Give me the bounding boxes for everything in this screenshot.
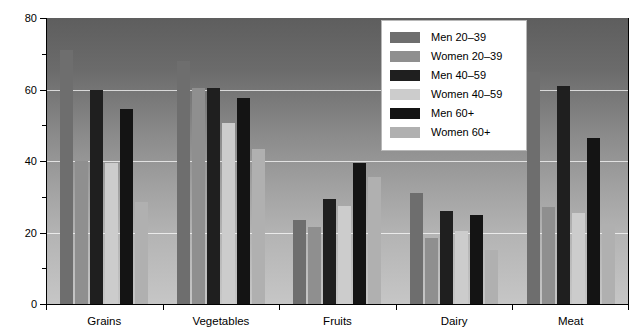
x-axis-category-label: Fruits — [323, 315, 352, 327]
x-axis-category: Grains — [46, 305, 163, 335]
bar — [105, 163, 118, 304]
bar-group — [512, 18, 629, 304]
legend-label: Women 60+ — [431, 127, 490, 138]
x-axis-category-label: Meat — [558, 315, 584, 327]
bar — [75, 161, 88, 304]
legend-item[interactable]: Men 60+ — [390, 104, 518, 123]
y-axis-tick-label: 60 — [25, 84, 37, 95]
x-axis-tick — [396, 305, 397, 310]
bar-chart: 020406080 GrainsVegetablesFruitsDairyMea… — [0, 0, 637, 335]
legend-swatch — [390, 89, 420, 100]
legend-label: Women 40–59 — [431, 89, 502, 100]
bar — [252, 149, 265, 305]
bar — [135, 202, 148, 304]
bar — [425, 238, 438, 304]
bar — [410, 193, 423, 304]
legend-swatch — [390, 51, 420, 62]
x-axis-category-label: Grains — [87, 315, 121, 327]
bar — [353, 163, 366, 304]
y-axis-tick-label: 40 — [25, 156, 37, 167]
bars-layer — [46, 18, 629, 304]
x-axis-tick — [279, 305, 280, 310]
bar — [323, 199, 336, 304]
legend-item[interactable]: Men 40–59 — [390, 66, 518, 85]
bar-group — [163, 18, 280, 304]
bar — [557, 86, 570, 304]
bar — [90, 90, 103, 305]
x-axis-category-label: Vegetables — [192, 315, 249, 327]
x-axis-tick — [163, 305, 164, 310]
legend-item[interactable]: Women 60+ — [390, 123, 518, 142]
bar — [572, 213, 585, 304]
bar-group — [46, 18, 163, 304]
legend-label: Men 20–39 — [431, 32, 486, 43]
bar — [587, 138, 600, 304]
x-axis-category: Fruits — [279, 305, 396, 335]
bar — [602, 224, 615, 304]
bar — [338, 206, 351, 304]
bar — [60, 50, 73, 304]
bar — [192, 88, 205, 304]
bar — [222, 123, 235, 304]
bar — [542, 207, 555, 304]
x-axis-tick — [46, 305, 47, 310]
bar — [177, 61, 190, 304]
y-axis-tick-label: 80 — [25, 13, 37, 24]
legend-swatch — [390, 127, 420, 138]
bar — [440, 211, 453, 304]
bar — [237, 98, 250, 304]
bar — [368, 177, 381, 304]
bar — [308, 227, 321, 304]
y-axis-tick-label: 0 — [31, 299, 37, 310]
bar — [470, 215, 483, 304]
bar-group — [279, 18, 396, 304]
x-axis-labels: GrainsVegetablesFruitsDairyMeat — [46, 305, 629, 335]
y-axis-line — [46, 18, 47, 304]
x-axis-tick — [512, 305, 513, 310]
legend-label: Women 20–39 — [431, 51, 502, 62]
chart-legend: Men 20–39Women 20–39Men 40–59Women 40–59… — [381, 20, 527, 151]
legend-item[interactable]: Women 20–39 — [390, 47, 518, 66]
legend-label: Men 60+ — [431, 108, 474, 119]
bar — [120, 109, 133, 304]
x-axis-right-cap — [628, 18, 629, 304]
x-axis-tick — [628, 305, 629, 310]
legend-label: Men 40–59 — [431, 70, 486, 81]
plot-area — [46, 18, 629, 304]
legend-swatch — [390, 32, 420, 43]
bar — [455, 231, 468, 304]
x-axis-category: Vegetables — [163, 305, 280, 335]
legend-swatch — [390, 108, 420, 119]
y-axis-tick-label: 20 — [25, 227, 37, 238]
bar — [293, 220, 306, 304]
legend-item[interactable]: Men 20–39 — [390, 28, 518, 47]
bar — [485, 250, 498, 304]
bar — [207, 88, 220, 304]
x-axis-category: Dairy — [396, 305, 513, 335]
x-axis-category-label: Dairy — [441, 315, 468, 327]
x-axis-category: Meat — [512, 305, 629, 335]
legend-item[interactable]: Women 40–59 — [390, 85, 518, 104]
legend-swatch — [390, 70, 420, 81]
bar — [527, 72, 540, 304]
y-axis: 020406080 — [0, 0, 46, 335]
